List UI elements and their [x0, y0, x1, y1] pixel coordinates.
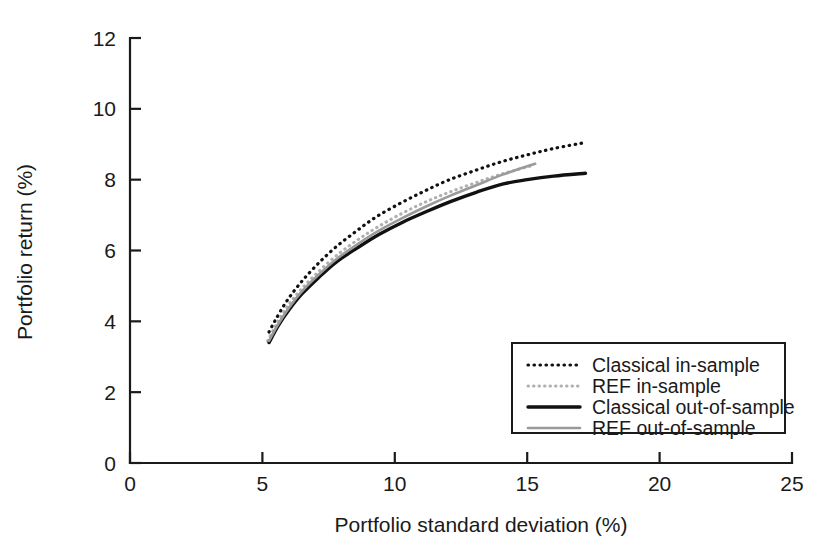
x-tick-label-10: 10	[383, 472, 406, 495]
legend-label-ref-in-sample: REF in-sample	[592, 375, 721, 397]
y-tick-label-2: 2	[104, 381, 116, 404]
efficient-frontier-chart: 024681012 0510152025 Portfolio standard …	[0, 0, 830, 552]
y-tick-label-8: 8	[104, 168, 116, 191]
chart-figure: 024681012 0510152025 Portfolio standard …	[0, 0, 830, 552]
x-tick-label-15: 15	[516, 472, 539, 495]
y-tick-label-12: 12	[93, 27, 116, 50]
y-tick-label-6: 6	[104, 239, 116, 262]
x-tick-label-5: 5	[257, 472, 269, 495]
x-tick-label-0: 0	[124, 472, 136, 495]
y-tick-label-10: 10	[93, 97, 116, 120]
y-axis-title: Portfolio return (%)	[13, 164, 36, 340]
x-tick-label-25: 25	[780, 472, 803, 495]
x-tick-label-20: 20	[648, 472, 671, 495]
chart-background	[0, 0, 830, 552]
x-axis-title: Portfolio standard deviation (%)	[335, 513, 628, 536]
y-tick-label-0: 0	[104, 452, 116, 475]
legend-label-classical-in-sample: Classical in-sample	[592, 354, 760, 376]
chart-legend: Classical in-sampleREF in-sampleClassica…	[512, 343, 795, 439]
legend-label-ref-out-of-sample: REF out-of-sample	[592, 417, 756, 439]
legend-label-classical-out-of-sample: Classical out-of-sample	[592, 396, 795, 418]
y-tick-label-4: 4	[104, 310, 116, 333]
